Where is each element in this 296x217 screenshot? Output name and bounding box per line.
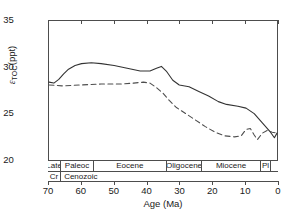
- x-tick-label: 30: [164, 186, 194, 196]
- series-layer: [49, 21, 277, 160]
- top-tick-mark: [179, 20, 180, 24]
- x-tick-label: 20: [197, 186, 227, 196]
- y-tick-label: 30: [0, 62, 14, 72]
- x-tick-label: 40: [132, 186, 162, 196]
- x-tick-label: 70: [33, 186, 63, 196]
- x-tick-label: 60: [66, 186, 96, 196]
- y-axis-label-symbol: ε: [7, 81, 17, 85]
- series-solid: [49, 63, 277, 138]
- top-tick-mark: [278, 20, 279, 24]
- top-tick-mark: [147, 20, 148, 24]
- y-tick-label: 20: [0, 155, 14, 165]
- top-tick-mark: [81, 20, 82, 24]
- top-tick-mark: [212, 20, 213, 24]
- x-tick-label: 0: [263, 186, 293, 196]
- geologic-timescale: LatePaleocEoceneOligoceneMiocenePl CrCen…: [48, 160, 278, 181]
- top-tick-mark: [114, 20, 115, 24]
- y-tick-label: 25: [0, 108, 14, 118]
- plot-area: [48, 20, 278, 160]
- x-axis-label: Age (Ma): [48, 199, 278, 209]
- series-dashed: [49, 82, 277, 139]
- top-tick-mark: [48, 20, 49, 24]
- epsilon-toc-age-chart: εTOC(ppt) 20253035 LatePaleocEoceneOligo…: [0, 0, 296, 217]
- x-tick-label: 50: [99, 186, 129, 196]
- y-tick-label: 35: [0, 15, 14, 25]
- x-axis-line: [48, 181, 278, 182]
- x-tick-label: 10: [230, 186, 260, 196]
- top-tick-mark: [245, 20, 246, 24]
